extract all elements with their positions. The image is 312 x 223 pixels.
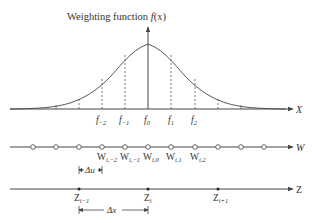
delta-x-label: Δx — [106, 205, 116, 215]
chart-title: Weighting function f(x) — [67, 11, 166, 23]
w-label-minus1: Wi,−1 — [120, 152, 140, 163]
f-label-minus2: f−2 — [96, 115, 107, 126]
x-axis-label: X — [295, 104, 303, 115]
w-labels: Wi,−2 Wi,−1 Wi,0 Wi,1 Wi,2 — [97, 152, 206, 163]
z-label-i-minus-1: Zi−1 — [74, 193, 89, 204]
f-label-minus1: f−1 — [119, 115, 129, 126]
delta-u-label: Δu — [84, 165, 95, 175]
w-label-1: Wi,1 — [166, 152, 182, 163]
weighting-function-diagram: Weighting function f(x) X f−2 f−1 f0 f1 … — [0, 0, 312, 223]
f-labels: f−2 f−1 f0 f1 f2 — [96, 115, 198, 126]
z-labels: Zi−1 Zi Zi+1 — [74, 193, 228, 204]
w-label-0: Wi,0 — [143, 152, 159, 163]
f-label-2: f2 — [191, 115, 198, 126]
w-axis-label: W — [296, 142, 306, 153]
f-label-0: f0 — [144, 115, 151, 126]
z-axis-label: Z — [296, 184, 302, 195]
z-label-i-plus-1: Zi+1 — [213, 193, 228, 204]
f-label-1: f1 — [168, 115, 174, 126]
w-label-2: Wi,2 — [190, 152, 206, 163]
w-label-minus2: Wi,−2 — [97, 152, 118, 163]
z-label-i: Zi — [144, 193, 152, 204]
